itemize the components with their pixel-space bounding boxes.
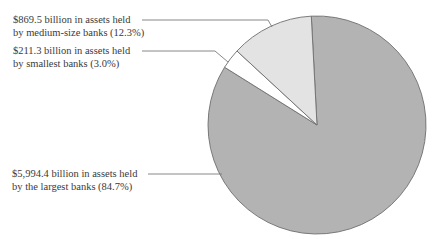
label-smallest-line1: $211.3 billion in assets held [13,44,130,57]
label-largest-line1: $5,994.4 billion in assets held [12,167,137,180]
leader-line-smallest [142,51,228,62]
label-smallest-line2: by smallest banks (3.0%) [13,57,130,70]
label-smallest-banks: $211.3 billion in assets held by smalles… [13,44,130,70]
label-medium-banks: $869.5 billion in assets held by medium-… [13,13,144,39]
label-medium-line2: by medium-size banks (12.3%) [13,26,144,39]
label-medium-line1: $869.5 billion in assets held [13,13,144,26]
pie-slices [208,16,426,234]
label-largest-line2: by the largest banks (84.7%) [12,180,137,193]
leader-line-medium [142,20,272,27]
label-largest-banks: $5,994.4 billion in assets held by the l… [12,167,137,193]
